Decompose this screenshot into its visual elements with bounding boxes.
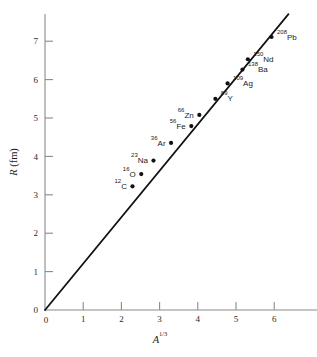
y-tick-label-3: 3	[34, 190, 39, 200]
x-axis-title-exponent: 1/3	[159, 330, 167, 337]
chart-plot-area: 123456712345600 12C16O23Na36Ar56Fe66Zn89…	[0, 0, 317, 357]
y-tick-label-0: 0	[34, 305, 39, 315]
element-symbol-56Fe: Fe	[176, 122, 186, 131]
x-tick-label-0: 0	[44, 315, 49, 325]
axis-titles-group: A1/3R (fm)	[8, 148, 167, 345]
x-tick-label-5: 5	[234, 314, 239, 324]
y-axis-title: R (fm)	[8, 148, 20, 177]
data-point-36Ar	[169, 141, 173, 145]
point-label-208Pb: 208Pb	[277, 29, 297, 42]
element-symbol-138Ba: Ba	[258, 65, 268, 74]
page-bottom-rule	[0, 351, 317, 357]
data-point-12C	[130, 184, 134, 188]
x-tick-label-3: 3	[157, 314, 162, 324]
data-point-23Na	[151, 159, 155, 163]
data-point-labels-group: 12C16O23Na36Ar56Fe66Zn89Y109Ag138Ba150Nd…	[115, 29, 298, 191]
point-label-56Fe: 56Fe	[170, 118, 187, 131]
fit-line-segment	[45, 14, 288, 310]
element-symbol-109Ag: Ag	[243, 79, 253, 88]
data-point-56Fe	[189, 124, 193, 128]
data-point-109Ag	[225, 81, 229, 85]
x-tick-label-1: 1	[81, 314, 86, 324]
element-symbol-66Zn: Zn	[184, 111, 193, 120]
nuclear-radius-chart: 123456712345600 12C16O23Na36Ar56Fe66Zn89…	[0, 0, 317, 357]
data-point-138Ba	[240, 68, 244, 72]
x-tick-label-4: 4	[196, 314, 201, 324]
data-point-208Pb	[269, 35, 273, 39]
fit-line	[45, 14, 288, 310]
y-tick-label-5: 5	[34, 113, 39, 123]
data-point-66Zn	[197, 113, 201, 117]
point-label-89Y: 89Y	[221, 90, 234, 103]
point-label-23Na: 23Na	[131, 152, 148, 165]
x-axis-title: A1/3	[152, 330, 168, 346]
element-symbol-12C: C	[121, 182, 127, 191]
point-label-109Ag: 109Ag	[233, 75, 253, 88]
element-symbol-150Nd: Nd	[263, 55, 273, 64]
element-symbol-23Na: Na	[138, 156, 149, 165]
tick-marks-group	[45, 41, 274, 310]
point-label-66Zn: 66Zn	[178, 107, 194, 120]
y-tick-label-1: 1	[34, 267, 39, 277]
axes-group	[45, 14, 317, 310]
data-point-89Y	[213, 97, 217, 101]
y-axis-title-unit: (fm)	[8, 148, 20, 170]
element-symbol-89Y: Y	[228, 94, 234, 103]
data-point-16O	[139, 172, 143, 176]
y-tick-label-6: 6	[34, 75, 39, 85]
point-label-36Ar: 36Ar	[151, 135, 166, 148]
y-tick-label-2: 2	[34, 228, 39, 238]
x-tick-label-2: 2	[119, 314, 124, 324]
y-tick-label-4: 4	[34, 152, 39, 162]
element-symbol-36Ar: Ar	[158, 139, 166, 148]
point-label-12C: 12C	[115, 178, 128, 191]
y-tick-label-7: 7	[34, 36, 39, 46]
element-symbol-208Pb: Pb	[287, 33, 297, 42]
element-symbol-16O: O	[130, 170, 136, 179]
point-label-16O: 16O	[123, 166, 136, 179]
x-tick-label-6: 6	[272, 314, 277, 324]
